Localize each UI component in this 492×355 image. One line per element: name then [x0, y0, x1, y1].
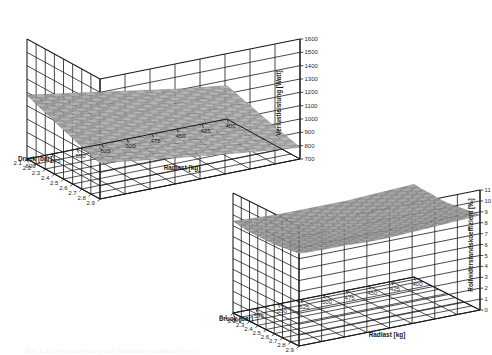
- axis-tick-label: 525: [299, 303, 310, 310]
- axis-tick-label: 1300: [305, 76, 319, 82]
- surface-plots-svg: 2.12.22.32.42.52.62.72.82.96005755505255…: [0, 0, 492, 355]
- axis-tick-label: 1000: [305, 116, 319, 122]
- figure-background: [0, 0, 492, 355]
- axis-tick-label: 550: [277, 307, 288, 314]
- axis-tick-label: 2.6: [59, 184, 68, 191]
- axis-tick-label: 2.8: [77, 194, 86, 201]
- axis-tick-label: 1600: [305, 36, 319, 42]
- axis-tick-label: 2.5: [50, 179, 59, 186]
- partial-caption: Bild 5.12: Verlustleistung und Rollwider…: [26, 348, 446, 355]
- axis-tick-label: 9: [485, 209, 488, 215]
- axis-tick-label: 600: [25, 162, 36, 169]
- axis-tick-label: 400: [412, 280, 423, 287]
- axis-tick-label: 2.9: [87, 199, 96, 206]
- axis-title-radlast: Radlast [kg]: [369, 331, 406, 339]
- axis-tick-label: 7: [485, 231, 488, 237]
- axis-tick-label: 2.4: [41, 174, 50, 181]
- axis-tick-label: 2.7: [68, 189, 77, 196]
- axis-tick-label: 700: [305, 156, 316, 162]
- axis-tick-label: 11: [485, 187, 491, 193]
- axis-tick-label: 425: [390, 285, 401, 292]
- axis-tick-label: 800: [305, 143, 316, 149]
- axis-tick-label: 450: [367, 289, 378, 296]
- axis-tick-label: 500: [125, 142, 136, 149]
- axis-tick-label: 525: [100, 147, 111, 154]
- axis-tick-label: 1200: [305, 89, 319, 95]
- axis-tick-label: 2.3: [32, 169, 41, 176]
- axis-tick-label: 10: [485, 198, 492, 204]
- axis-tick-label: 425: [200, 127, 211, 134]
- axis-tick-label: 500: [322, 298, 333, 305]
- axis-tick-label: 900: [305, 129, 316, 135]
- partial-caption-text: Bild 5.12: Verlustleistung und Rollwider…: [26, 348, 446, 354]
- axis-tick-label: 475: [150, 137, 161, 144]
- axis-tick-label: 575: [254, 312, 265, 319]
- axis-title-druck: Druck [bar]: [18, 155, 52, 163]
- axis-title-druck: Druck [bar]: [219, 315, 253, 323]
- axis-title-radlast: Radlast [kg]: [164, 164, 201, 172]
- axis-tick-label: 1100: [305, 103, 318, 109]
- axis-tick-label: 450: [175, 132, 186, 139]
- axis-tick-label: 2: [485, 285, 488, 291]
- axis-tick-label: 475: [345, 294, 356, 301]
- axis-title-z: Rollwiderstandskoeffizient [‰]: [467, 198, 475, 291]
- axis-tick-label: 1: [485, 296, 488, 302]
- axis-title-z: Verlustleistung [Watt]: [275, 70, 283, 135]
- figure-root: 2.12.22.32.42.52.62.72.82.96005755505255…: [0, 0, 492, 355]
- axis-tick-label: 550: [75, 152, 86, 159]
- axis-tick-label: 1400: [305, 63, 319, 69]
- axis-tick-label: 1500: [305, 49, 319, 55]
- axis-tick-label: 400: [225, 122, 236, 129]
